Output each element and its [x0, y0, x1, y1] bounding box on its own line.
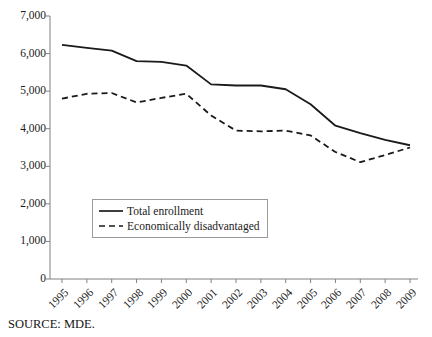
legend-entry-economically-disadvantaged: Economically disadvantaged [98, 218, 260, 233]
solid-line-sample-icon [98, 206, 124, 216]
legend-label-total-enrollment: Total enrollment [127, 205, 203, 217]
legend-label-economically-disadvantaged: Economically disadvantaged [127, 220, 260, 232]
source-note: SOURCE: MDE. [8, 317, 95, 331]
chart-legend: Total enrollment Economically disadvanta… [92, 199, 268, 238]
legend-entry-total-enrollment: Total enrollment [98, 203, 260, 218]
dashed-line-sample-icon [98, 221, 124, 231]
enrollment-line-chart-figure: 01,0002,0003,0004,0005,0006,0007,000 199… [0, 0, 432, 337]
x-axis-tick-labels: 1995199619971998199920002001200220032004… [0, 0, 432, 337]
